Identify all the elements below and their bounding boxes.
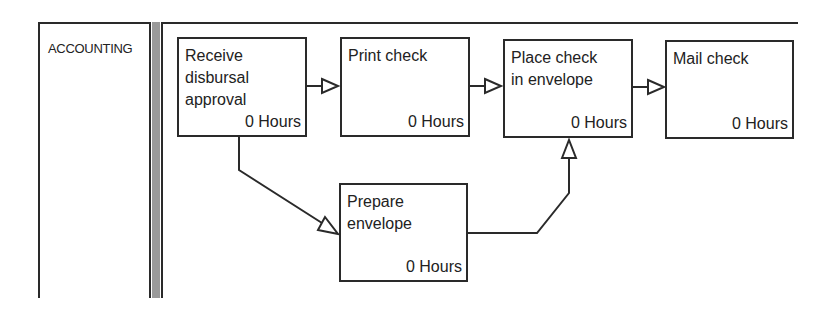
task-receive-disbursal-approval[interactable]: Receive disbursal approval 0 Hours bbox=[177, 37, 307, 137]
task-name: Place check in envelope bbox=[511, 47, 597, 91]
task-duration: 0 Hours bbox=[571, 113, 627, 133]
task-print-check[interactable]: Print check 0 Hours bbox=[340, 37, 470, 137]
connector-print-to-place bbox=[469, 79, 501, 93]
task-duration: 0 Hours bbox=[732, 114, 788, 134]
task-name: Receive disbursal approval bbox=[185, 45, 249, 111]
connector-receive-to-print bbox=[306, 79, 338, 93]
task-duration: 0 Hours bbox=[408, 112, 464, 132]
task-name: Print check bbox=[348, 45, 427, 67]
task-mail-check[interactable]: Mail check 0 Hours bbox=[665, 40, 794, 139]
task-prepare-envelope[interactable]: Prepare envelope 0 Hours bbox=[339, 183, 468, 282]
connector-prepare-to-place bbox=[467, 140, 576, 233]
connector-place-to-mail bbox=[632, 80, 664, 94]
task-name: Prepare envelope bbox=[347, 191, 412, 235]
task-duration: 0 Hours bbox=[245, 112, 301, 132]
task-duration: 0 Hours bbox=[406, 257, 462, 277]
task-name: Mail check bbox=[673, 48, 749, 70]
task-place-check-in-envelope[interactable]: Place check in envelope 0 Hours bbox=[503, 39, 633, 138]
connector-receive-to-prepare bbox=[239, 136, 338, 234]
